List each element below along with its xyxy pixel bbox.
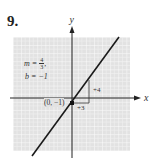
m-label: m = bbox=[24, 59, 37, 68]
y-axis-arrow-icon bbox=[70, 26, 75, 33]
intercept-annotation: b = −1 bbox=[25, 72, 48, 81]
x-axis-label: x bbox=[143, 92, 149, 103]
run-label: +3 bbox=[77, 104, 84, 112]
slope-annotation: m = 4 3 , bbox=[24, 57, 46, 70]
y-intercept-point bbox=[70, 101, 74, 105]
y-axis-label: y bbox=[69, 14, 75, 25]
rise-label: +4 bbox=[93, 86, 100, 94]
x-axis-arrow-icon bbox=[134, 96, 141, 101]
point-label: (0, −1) bbox=[44, 98, 64, 107]
comma: , bbox=[44, 59, 46, 68]
graph: x y bbox=[0, 0, 153, 166]
slope-denominator: 3 bbox=[40, 64, 43, 70]
